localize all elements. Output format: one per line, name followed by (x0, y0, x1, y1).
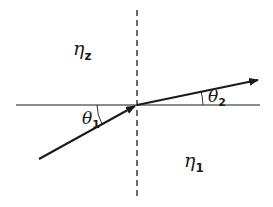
theta2-label: θ2 (208, 86, 226, 109)
refracted-ray-arrow (137, 80, 258, 105)
region-lower-label: η1 (184, 149, 204, 175)
theta2-arc (201, 91, 203, 105)
refraction-diagram: ηz η1 θ1 θ2 (0, 0, 273, 207)
region-upper-label: ηz (73, 37, 91, 63)
